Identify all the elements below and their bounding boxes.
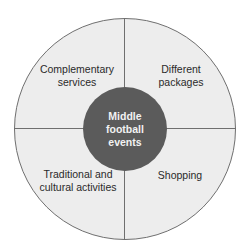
quadrant-label-top-right: Different packages <box>159 63 204 89</box>
center-circle: Middle football events <box>83 87 167 171</box>
quadrant-label-top-left: Complementary services <box>40 63 114 89</box>
quadrant-label-bottom-left: Traditional and cultural activities <box>39 168 116 194</box>
quadrant-diagram: Complementary services Different package… <box>0 0 247 249</box>
center-label: Middle football events <box>106 110 144 149</box>
quadrant-label-bottom-right: Shopping <box>158 169 202 182</box>
